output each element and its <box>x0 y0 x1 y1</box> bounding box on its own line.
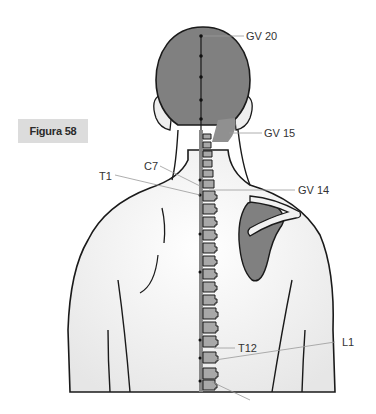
label-gv15: GV 15 <box>264 127 295 139</box>
label-l1: L1 <box>342 336 354 348</box>
label-t1: T1 <box>99 170 112 182</box>
label-t12: T12 <box>238 342 257 354</box>
label-gv20: GV 20 <box>246 30 277 42</box>
label-gv14: GV 14 <box>298 184 329 196</box>
head <box>156 27 250 125</box>
label-c7: C7 <box>144 160 158 172</box>
back-anatomy-illustration: GV 20 GV 15 GV 14 C7 T1 T12 L1 <box>0 0 376 414</box>
